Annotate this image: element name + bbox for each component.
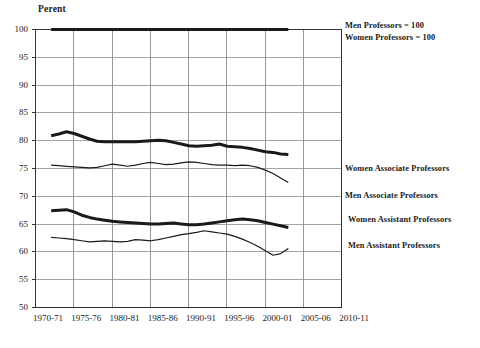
x-tick-label-1975-76: 1975-76	[71, 314, 101, 323]
series-line-women-assistant-professors	[51, 210, 288, 228]
x-tick-label-1985-86: 1985-86	[148, 314, 178, 323]
y-tick-label-70: 70	[0, 192, 28, 201]
y-tick-label-95: 95	[0, 53, 28, 62]
chart-container: Perent 10095908580757065605550 1970-7119…	[0, 0, 480, 348]
x-tick-label-2010-11: 2010-11	[339, 314, 369, 323]
series-label-women-assistant-professors: Women Assistant Professors	[348, 214, 451, 225]
y-tick-label-50: 50	[0, 303, 28, 312]
series-label-men-assistant-professors: Men Assistant Professors	[348, 240, 440, 251]
gridlines	[36, 30, 342, 308]
series-label-men-associate-professors: Men Associate Professors	[345, 190, 438, 201]
plot-area	[0, 0, 480, 348]
y-tick-label-90: 90	[0, 81, 28, 90]
legend-note-men-professors: Men Professors = 100	[345, 20, 424, 32]
x-tick-label-1970-71: 1970-71	[33, 314, 63, 323]
y-tick-label-65: 65	[0, 220, 28, 229]
y-tick-label-55: 55	[0, 275, 28, 284]
series-line-women-associate-professors	[51, 132, 288, 155]
y-tick-label-80: 80	[0, 136, 28, 145]
series-label-women-associate-professors: Women Associate Professors	[345, 163, 449, 174]
y-tick-label-85: 85	[0, 108, 28, 117]
y-tick-label-60: 60	[0, 247, 28, 256]
x-tick-label-1980-81: 1980-81	[110, 314, 140, 323]
x-tick-label-2000-01: 2000-01	[263, 314, 293, 323]
data-series-layer	[51, 30, 288, 256]
x-tick-label-2005-06: 2005-06	[301, 314, 331, 323]
x-tick-label-1995-96: 1995-96	[224, 314, 254, 323]
y-tick-label-100: 100	[0, 25, 28, 34]
y-tick-label-75: 75	[0, 164, 28, 173]
x-tick-label-1990-91: 1990-91	[186, 314, 216, 323]
legend-note-women-professors: Women Professors = 100	[345, 32, 435, 44]
series-line-men-associate-professors	[51, 162, 288, 183]
